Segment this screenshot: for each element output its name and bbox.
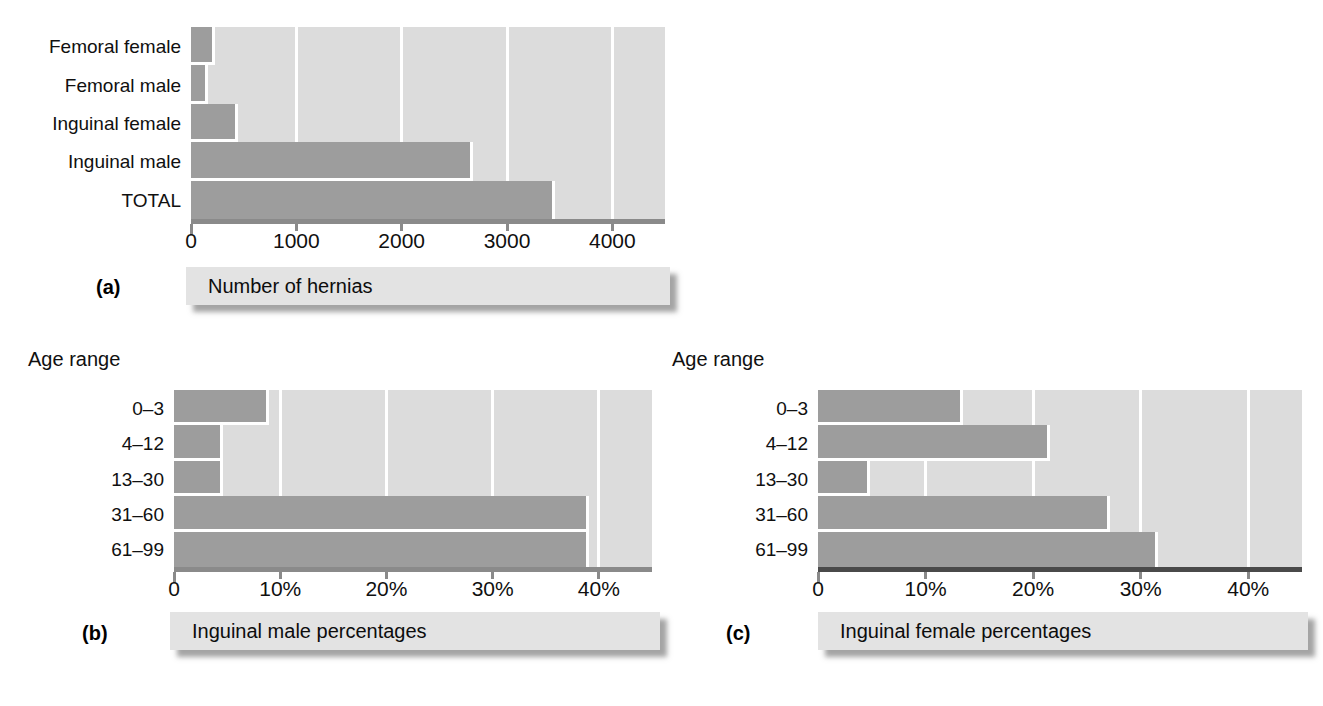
category-label: 61–99: [755, 540, 808, 559]
category-label: Femoral female: [49, 37, 181, 56]
bar-end-marker: [1107, 496, 1110, 531]
bar: [818, 425, 1047, 460]
caption-text: Number of hernias: [186, 275, 373, 298]
bar-end-marker: [212, 27, 215, 65]
bar: [174, 390, 266, 425]
x-axis-tick-label: 30%: [472, 578, 514, 599]
panel-b-inguinal-male-percentages: Age range0–34–1213–3031–6061–99010%20%30…: [0, 340, 700, 706]
category-label: Inguinal male: [68, 152, 181, 171]
category-label: Inguinal female: [52, 114, 181, 133]
bar: [191, 142, 470, 180]
x-axis-line: [818, 567, 1302, 572]
bar-end-marker: [552, 181, 555, 219]
bar-end-marker: [220, 425, 223, 460]
panel-a-number-of-hernias: Femoral femaleFemoral maleInguinal femal…: [0, 0, 700, 330]
category-label: 4–12: [766, 434, 808, 453]
bar: [174, 425, 220, 460]
bar: [818, 496, 1107, 531]
category-label: Femoral male: [65, 75, 181, 94]
panel-letter: (c): [726, 622, 750, 645]
x-axis-tick-label: 40%: [578, 578, 620, 599]
category-label: 0–3: [132, 398, 164, 417]
bar-end-marker: [960, 390, 963, 425]
x-axis-tick-label: 4000: [589, 230, 636, 251]
x-axis-tick-label: 3000: [484, 230, 531, 251]
x-axis-tick-label: 0: [185, 230, 197, 251]
x-axis-tick-label: 0: [168, 578, 180, 599]
plot-area: [191, 27, 665, 219]
bar-end-marker: [470, 142, 473, 180]
bar: [818, 390, 960, 425]
bar-end-marker: [586, 532, 589, 567]
gridline: [597, 390, 600, 567]
gridline: [611, 27, 614, 219]
axis-group-title: Age range: [672, 348, 764, 371]
caption-bar: Number of hernias: [186, 267, 670, 305]
x-axis-tick-label: 1000: [273, 230, 320, 251]
plot-area: [818, 390, 1302, 567]
bar-end-marker: [205, 65, 208, 103]
category-label: 13–30: [755, 469, 808, 488]
category-label: 31–60: [755, 504, 808, 523]
panel-letter: (b): [82, 622, 108, 645]
bar-end-marker: [586, 496, 589, 531]
x-axis-tick-label: 20%: [1012, 578, 1054, 599]
plot-area: [174, 390, 652, 567]
category-label: 0–3: [776, 398, 808, 417]
bar: [191, 65, 205, 103]
bar-end-marker: [1047, 425, 1050, 460]
bar: [174, 532, 586, 567]
caption-text: Inguinal male percentages: [170, 620, 427, 643]
bar-end-marker: [1155, 532, 1158, 567]
x-axis-tick-label: 0: [812, 578, 824, 599]
caption-bar: Inguinal female percentages: [818, 612, 1308, 650]
bar-end-marker: [266, 390, 269, 425]
x-axis-tick-label: 30%: [1120, 578, 1162, 599]
bar: [191, 104, 235, 142]
bar: [191, 27, 212, 65]
x-axis-tick-label: 10%: [259, 578, 301, 599]
x-axis-line: [191, 219, 665, 224]
bar: [174, 496, 586, 531]
category-label: 13–30: [111, 469, 164, 488]
bar: [818, 532, 1155, 567]
category-label: TOTAL: [122, 190, 181, 209]
caption-bar: Inguinal male percentages: [170, 612, 660, 650]
x-axis-tick-label: 2000: [378, 230, 425, 251]
x-axis-line: [174, 567, 652, 572]
category-label: 61–99: [111, 540, 164, 559]
bar: [191, 181, 552, 219]
x-axis-tick-label: 10%: [905, 578, 947, 599]
bar-end-marker: [867, 461, 870, 496]
bar-end-marker: [235, 104, 238, 142]
x-axis-tick-label: 20%: [365, 578, 407, 599]
axis-group-title: Age range: [28, 348, 120, 371]
panel-letter: (a): [96, 276, 120, 299]
category-label: 4–12: [122, 434, 164, 453]
x-axis-tick-label: 40%: [1227, 578, 1269, 599]
gridline: [1247, 390, 1250, 567]
category-label: 31–60: [111, 504, 164, 523]
panel-c-inguinal-female-percentages: Age range0–34–1213–3031–6061–99010%20%30…: [620, 340, 1323, 706]
bar-end-marker: [220, 461, 223, 496]
caption-text: Inguinal female percentages: [818, 620, 1091, 643]
bar: [174, 461, 220, 496]
bar: [818, 461, 867, 496]
